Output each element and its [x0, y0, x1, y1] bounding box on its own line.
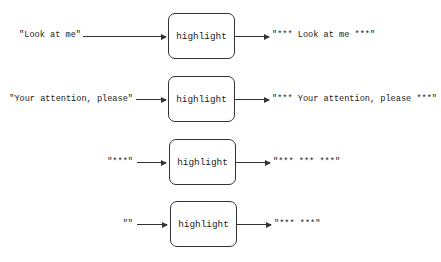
input-arrow [137, 224, 167, 225]
diagram-row-4: "" highlight "*** ***" [0, 201, 441, 247]
diagram-row-3: "***" highlight "*** *** ***" [0, 139, 441, 185]
function-box: highlight [168, 13, 235, 59]
input-arrow [83, 36, 166, 37]
output-arrow [235, 36, 269, 37]
input-value: "Your attention, please" [9, 94, 133, 104]
diagram-row-2: "Your attention, please" highlight "*** … [0, 76, 441, 122]
function-box: highlight [169, 139, 236, 185]
function-label: highlight [178, 219, 229, 230]
input-arrow [136, 99, 166, 100]
function-box: highlight [168, 76, 235, 122]
output-value: "*** Look at me ***" [272, 30, 375, 40]
output-arrow [236, 162, 270, 163]
input-value: "Look at me" [19, 30, 81, 40]
output-value: "*** Your attention, please ***" [272, 94, 437, 104]
input-value: "***" [107, 157, 133, 167]
output-arrow [237, 224, 271, 225]
input-value: "" [123, 219, 133, 229]
output-value: "*** *** ***" [273, 157, 340, 167]
function-label: highlight [177, 157, 228, 168]
function-box: highlight [170, 201, 237, 247]
output-value: "*** ***" [274, 219, 320, 229]
function-label: highlight [176, 31, 227, 42]
output-arrow [235, 99, 269, 100]
input-arrow [137, 162, 166, 163]
diagram-row-1: "Look at me" highlight "*** Look at me *… [0, 13, 441, 59]
function-label: highlight [176, 94, 227, 105]
